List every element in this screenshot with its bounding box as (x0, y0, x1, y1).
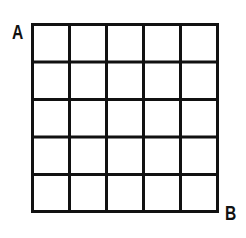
corner-label-a: A (12, 22, 23, 42)
corner-label-b: B (225, 203, 236, 223)
grid-border (33, 25, 218, 212)
grid-diagram (31, 23, 219, 213)
